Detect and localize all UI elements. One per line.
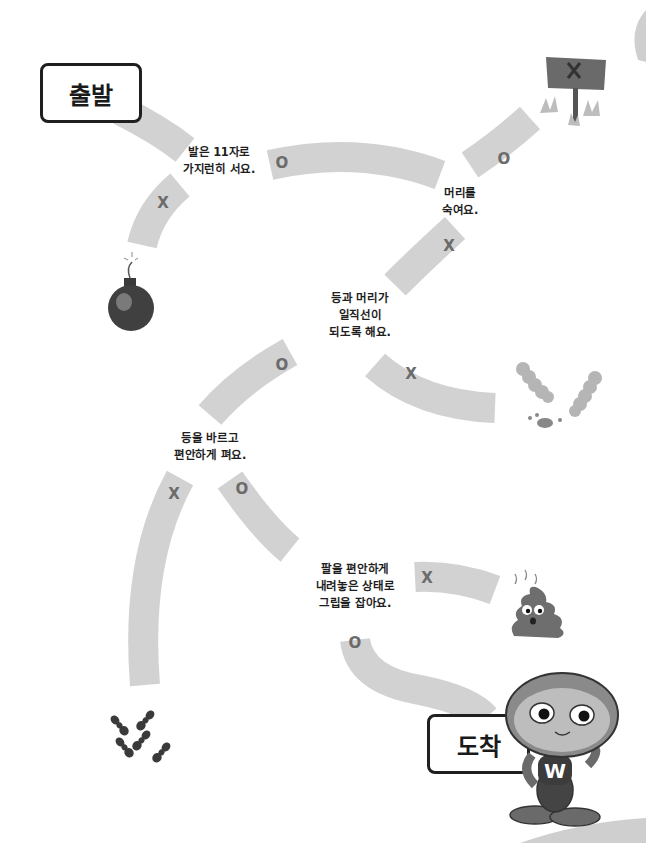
- instr-line: 일직선이: [310, 307, 410, 324]
- checkpoint-back: 등을 바르고 편안하게 펴요.: [160, 430, 260, 464]
- caterpillars-icon: [515, 360, 625, 440]
- instr-line: 발은 11자로: [174, 144, 264, 161]
- mascot-shirt-letter: W: [544, 759, 566, 783]
- instr-line: 등과 머리가: [310, 290, 410, 307]
- mascot-character: W: [490, 670, 630, 830]
- instr-line: 그립을 잡아요.: [300, 595, 410, 612]
- mark-back-x: X: [168, 485, 180, 503]
- checkpoint-arms: 팔을 편안하게 내려놓은 상태로 그립을 잡아요.: [300, 561, 410, 612]
- mark-feet-o: O: [276, 154, 289, 172]
- mark-backhead-o: O: [276, 356, 289, 374]
- mark-backhead-x: X: [405, 365, 417, 383]
- instr-line: 내려놓은 상태로: [300, 578, 410, 595]
- checkpoint-back-head: 등과 머리가 일직선이 되도록 해요.: [310, 290, 410, 341]
- mark-head-o: O: [498, 150, 511, 168]
- instr-line: 등을 바르고: [160, 430, 260, 447]
- checkpoint-feet: 발은 11자로 가지런히 서요.: [174, 144, 264, 178]
- x-signpost-icon: [528, 50, 608, 130]
- path-arms-o: [355, 640, 485, 718]
- poop-icon: [510, 568, 570, 643]
- instr-line: 되도록 해요.: [310, 324, 410, 341]
- mark-back-o: O: [236, 480, 249, 498]
- instr-line: 머리를: [430, 185, 490, 202]
- instr-line: 편안하게 펴요.: [160, 447, 260, 464]
- instr-line: 숙여요.: [430, 202, 490, 219]
- bomb-icon: [100, 248, 160, 348]
- start-label: 출발: [69, 76, 113, 111]
- start-box: 출발: [40, 63, 142, 123]
- path-feet-o: [270, 157, 440, 175]
- mark-feet-x: X: [157, 194, 169, 212]
- decorative-arc-top: [634, 10, 646, 62]
- path-backhead-x: [375, 365, 495, 408]
- mark-arms-x: X: [421, 569, 433, 587]
- checkpoint-head: 머리를 숙여요.: [430, 185, 490, 219]
- ants-icon: [100, 705, 190, 775]
- mark-head-x: X: [443, 237, 455, 255]
- mark-arms-o: O: [349, 634, 362, 652]
- path-back-x: [143, 478, 180, 685]
- maze-worksheet: 출발 도착 발은 11자로 가지런히 서요. 머리를 숙여요. 등과 머리가 일…: [0, 0, 646, 843]
- instr-line: 가지런히 서요.: [174, 161, 264, 178]
- instr-line: 팔을 편안하게: [300, 561, 410, 578]
